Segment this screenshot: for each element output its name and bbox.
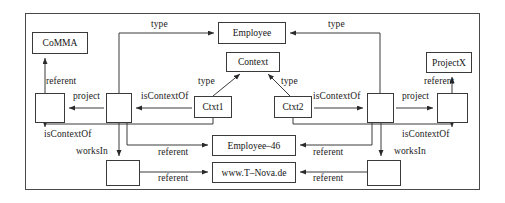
edge-label-iscontextof-1: isContextOf	[141, 92, 189, 102]
node-blank-left-mid[interactable]	[106, 93, 132, 123]
node-blank-left[interactable]	[35, 93, 65, 123]
node-comma[interactable]: CoMMA	[32, 32, 88, 54]
node-employee-46[interactable]: Employee–46	[212, 135, 296, 156]
edge-label-project-left: project	[73, 92, 100, 102]
edge-label-referent-comma: referent	[46, 77, 76, 87]
node-blank-bottom-left[interactable]	[106, 160, 140, 186]
edge-referent-emp46-left	[127, 123, 208, 145]
diagram-canvas: CoMMA Employee Context ProjectX Ctxt1 Ct…	[0, 0, 505, 203]
edge-label-type-ctxt2: type	[281, 77, 298, 87]
node-context[interactable]: Context	[226, 52, 280, 72]
edge-label-referent-emp46-left: referent	[158, 148, 188, 158]
edge-referent-emp46-right	[300, 123, 372, 145]
edge-label-iscontextof-3: isContextOf	[44, 130, 92, 140]
edge-label-type-left: type	[151, 20, 168, 30]
node-blank-bottom-right[interactable]	[367, 160, 401, 186]
node-blank-right-mid[interactable]	[367, 93, 394, 123]
node-ctxt2[interactable]: Ctxt2	[274, 96, 312, 118]
edge-label-referent-tnova-left: referent	[158, 174, 188, 184]
node-www-t-nova-de[interactable]: www.T–Nova.de	[212, 162, 296, 183]
node-projectx[interactable]: ProjectX	[426, 52, 472, 73]
edge-label-type-right: type	[328, 20, 345, 30]
edge-type-ctxt1	[213, 74, 240, 96]
edge-label-iscontextof-4: isContextOf	[402, 130, 450, 140]
edge-type-right	[290, 33, 380, 93]
edge-label-worksin-left: worksIn	[76, 147, 108, 157]
edge-label-worksin-right: worksIn	[394, 147, 426, 157]
node-blank-right[interactable]	[437, 93, 468, 123]
node-ctxt1[interactable]: Ctxt1	[194, 96, 232, 118]
edge-label-referent-projectx: referent	[424, 77, 454, 87]
edge-label-referent-emp46-right: referent	[313, 148, 343, 158]
edge-label-project-right: project	[402, 92, 429, 102]
edge-label-referent-tnova-right: referent	[313, 174, 343, 184]
edge-label-type-ctxt1: type	[198, 77, 215, 87]
edge-label-iscontextof-2: isContextOf	[313, 92, 361, 102]
node-employee[interactable]: Employee	[218, 22, 286, 44]
